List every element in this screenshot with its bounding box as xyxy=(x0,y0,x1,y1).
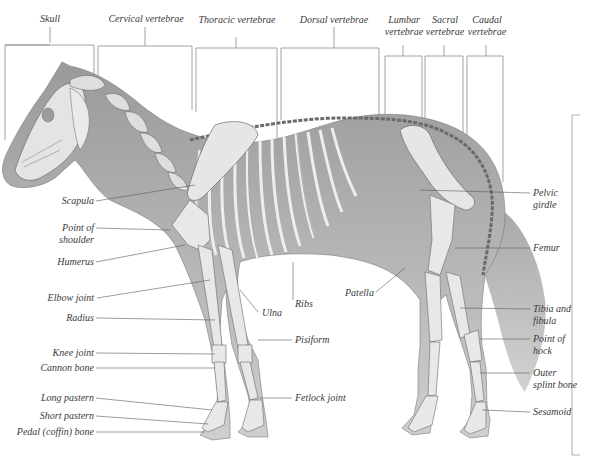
label-skull: Skull xyxy=(30,13,70,25)
label-elbow-joint: Elbow joint xyxy=(0,292,94,304)
label-ribs: Ribs xyxy=(295,298,313,310)
label-outer-splint-bone: Outer splint bone xyxy=(533,367,577,391)
label-line: Point of xyxy=(0,222,94,234)
label-line: hock xyxy=(533,345,565,357)
label-line: Point of xyxy=(533,333,565,345)
label-thoracic-vertebrae: Thoracic vertebrae xyxy=(195,14,279,26)
label-line: Pelvic xyxy=(533,187,558,199)
label-scapula: Scapula xyxy=(0,195,94,207)
label-long-pastern: Long pastern xyxy=(0,392,94,404)
label-line: vertebrae xyxy=(424,26,466,38)
side-bracket xyxy=(572,115,580,455)
label-line: splint bone xyxy=(533,379,577,391)
label-fetlock-joint: Fetlock joint xyxy=(295,392,346,404)
label-pisiform: Pisiform xyxy=(295,334,329,346)
label-pelvic-girdle: Pelvic girdle xyxy=(533,187,558,211)
label-ulna: Ulna xyxy=(262,307,282,319)
label-line: Lumbar xyxy=(383,14,425,26)
label-cervical-vertebrae: Cervical vertebrae xyxy=(100,13,192,25)
label-point-of-hock: Point of hock xyxy=(533,333,565,357)
label-line: Tibia and xyxy=(533,303,571,315)
label-caudal-vertebrae: Caudal vertebrae xyxy=(466,14,508,38)
label-line: Caudal xyxy=(466,14,508,26)
label-line: fibula xyxy=(533,315,571,327)
label-pedal-coffin-bone: Pedal (coffin) bone xyxy=(0,426,94,438)
label-point-of-shoulder: Point of shoulder xyxy=(0,222,94,246)
label-line: Sacral xyxy=(424,14,466,26)
label-line: vertebrae xyxy=(383,26,425,38)
label-line: vertebrae xyxy=(466,26,508,38)
label-dorsal-vertebrae: Dorsal vertebrae xyxy=(292,14,376,26)
label-femur: Femur xyxy=(533,242,560,254)
label-line: Outer xyxy=(533,367,577,379)
label-line: shoulder xyxy=(0,234,94,246)
label-tibia-and-fibula: Tibia and fibula xyxy=(533,303,571,327)
label-sesamoid: Sesamoid xyxy=(533,406,571,418)
label-lumbar-vertebrae: Lumbar vertebrae xyxy=(383,14,425,38)
label-cannon-bone: Cannon bone xyxy=(0,362,94,374)
label-sacral-vertebrae: Sacral vertebrae xyxy=(424,14,466,38)
label-line: girdle xyxy=(533,199,558,211)
label-patella: Patella xyxy=(345,287,374,299)
label-short-pastern: Short pastern xyxy=(0,410,94,422)
label-humerus: Humerus xyxy=(0,256,94,268)
label-knee-joint: Knee joint xyxy=(0,347,94,359)
label-radius: Radius xyxy=(0,312,94,324)
